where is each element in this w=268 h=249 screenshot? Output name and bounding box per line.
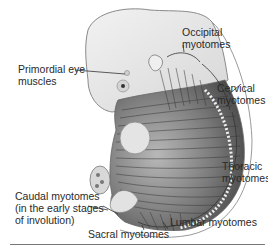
embryo-myotome-diagram: Occipital myotomes Primordial eye muscle…	[0, 0, 268, 249]
label-thoracic-myotomes: Thoracic myotomes	[222, 160, 268, 184]
label-cervical-myotomes: Cervical myotomes	[217, 82, 265, 106]
bottom-rule	[10, 244, 265, 245]
upper-limb-bud	[120, 122, 150, 154]
label-sacral-myotomes: Sacral myotomes	[88, 228, 169, 240]
label-primordial-eye-muscles: Primordial eye muscles	[18, 63, 85, 87]
label-occipital-myotomes: Occipital myotomes	[182, 26, 230, 50]
label-caudal-myotomes: Caudal myotomes (in the early stages of …	[15, 190, 104, 226]
label-lumbar-myotomes: Lumbar myotomes	[170, 216, 257, 228]
